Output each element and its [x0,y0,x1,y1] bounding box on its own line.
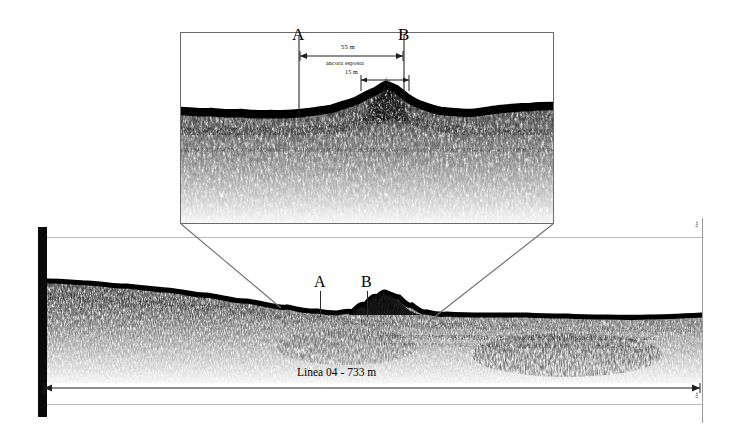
main-marker-b-tick [367,291,368,317]
lower-reference-rule [38,404,703,405]
inset-span-label: 55 m [341,44,355,51]
inset-annotation-overlay [181,33,553,223]
line-caption: Linea 04 - 733 m [297,367,376,379]
main-marker-a-tick [320,291,321,317]
inset-detail-panel [180,32,554,224]
figure-root: A B 55 m ancora esposta 15 m A B Linea 0… [0,0,737,444]
inset-anchor-dimension [361,75,409,91]
main-marker-a-label: A [314,274,326,290]
upper-reference-rule [38,237,703,238]
right-margin-top-label: fix [694,221,699,227]
inset-feature-label: ancora esposta [326,60,364,66]
main-record-svg [47,243,702,383]
inset-feature-span-label: 15 m [345,69,358,75]
line-length-dimension [38,380,706,396]
right-margin-bottom-label: fix [694,392,699,398]
main-marker-b-label: B [361,274,372,290]
inset-marker-a-label: A [292,26,304,43]
main-record-panel [47,243,702,383]
inset-marker-b-label: B [398,26,409,43]
